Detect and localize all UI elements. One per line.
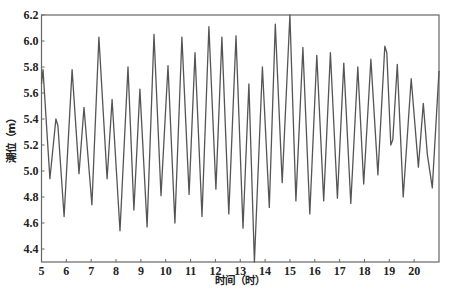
x-tick-label: 17	[334, 264, 346, 278]
y-tick-label: 4.6	[24, 216, 39, 230]
x-tick-label: 20	[408, 264, 420, 278]
tide-level-line	[42, 15, 440, 262]
x-tick-label: 11	[185, 264, 196, 278]
y-tick-label: 5.8	[24, 60, 39, 74]
x-tick-label: 19	[383, 264, 395, 278]
y-axis-title: 潮位（m）	[5, 113, 17, 164]
x-tick-label: 8	[113, 264, 119, 278]
x-tick-label: 18	[358, 264, 370, 278]
y-tick-label: 4.8	[24, 190, 39, 204]
y-tick-label: 5.6	[24, 86, 39, 100]
x-tick-label: 15	[284, 264, 296, 278]
x-tick-label: 16	[309, 264, 321, 278]
y-tick-label: 5.4	[24, 112, 39, 126]
x-tick-label: 9	[138, 264, 144, 278]
x-tick-label: 5	[39, 264, 45, 278]
y-tick-label: 6.2	[24, 8, 39, 22]
x-tick-label: 7	[88, 264, 94, 278]
y-tick-label: 5.2	[24, 138, 39, 152]
y-tick-label: 5.0	[24, 164, 39, 178]
y-tick-label: 6.0	[24, 34, 39, 48]
x-tick-label: 6	[63, 264, 69, 278]
x-tick-label: 10	[160, 264, 172, 278]
tide-level-chart: 4.44.64.85.05.25.45.65.86.06.2 567891011…	[0, 0, 449, 302]
x-axis-title: 时间（时）	[215, 274, 265, 286]
y-tick-label: 4.4	[24, 242, 39, 256]
